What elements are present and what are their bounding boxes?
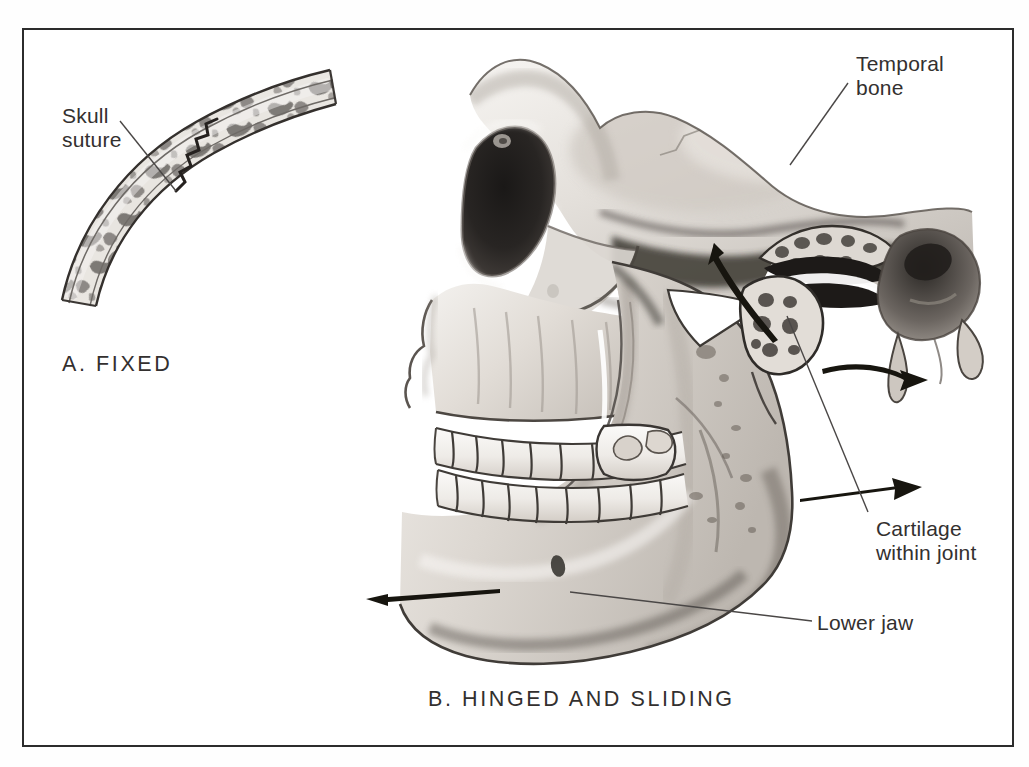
cartilage-leader-line (787, 316, 868, 512)
jaw-slide-arrow (800, 478, 922, 502)
temporal-bone-label: Temporal bone (856, 52, 944, 100)
teeth (435, 425, 689, 524)
cartilage-within-joint-label: Cartilage within joint (876, 517, 976, 565)
skull-bone-band (50, 55, 360, 325)
panel-a-caption: A. FIXED (62, 352, 172, 377)
mastoid-region (878, 229, 983, 402)
skull-suture-label: Skull suture (62, 104, 122, 152)
panel-b-illustration (400, 40, 1000, 664)
panel-b-caption: B. HINGED AND SLIDING (428, 687, 735, 712)
ramus-slide-arrow (822, 364, 928, 391)
temporal-bone-leader-line (790, 83, 848, 165)
lower-jaw-label: Lower jaw (817, 611, 913, 635)
panel-a-illustration (0, 0, 1029, 767)
